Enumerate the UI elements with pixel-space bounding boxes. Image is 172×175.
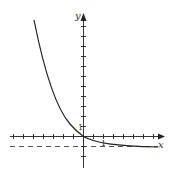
y-axis-label: y	[74, 10, 81, 21]
x-tick-label-1: 1	[101, 139, 106, 148]
y-axis-arrow-icon	[81, 13, 87, 21]
y-tick-label-1: 1	[78, 123, 83, 132]
decay-curve	[34, 20, 158, 147]
graph: y x 1 1	[0, 0, 172, 175]
x-axis-label: x	[158, 139, 164, 150]
